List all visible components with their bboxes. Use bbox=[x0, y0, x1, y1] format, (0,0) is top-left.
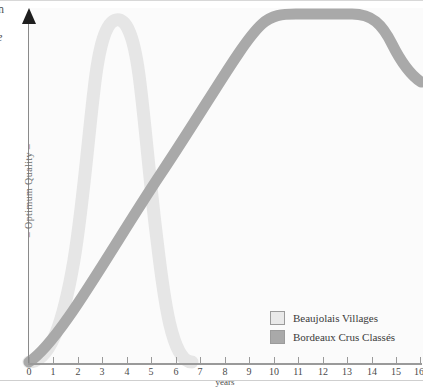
legend: Beaujolais Villages Bordeaux Crus Classé… bbox=[266, 306, 399, 348]
x-axis-tick bbox=[53, 357, 54, 363]
wine-aging-chart: n e – Optimum Quality – 0 1 2 3 4 5 6 7 … bbox=[0, 0, 423, 388]
x-axis-tick-label: 1 bbox=[51, 366, 56, 377]
x-axis-label: years bbox=[216, 377, 235, 387]
x-axis-tick bbox=[200, 357, 201, 363]
x-axis-tick bbox=[151, 357, 152, 363]
x-axis-tick bbox=[298, 357, 299, 363]
y-axis-label: – Optimum Quality – bbox=[23, 111, 34, 271]
x-axis-tick-label: 12 bbox=[318, 366, 328, 377]
x-axis-tick-label: 9 bbox=[247, 366, 252, 377]
x-axis-tick bbox=[225, 357, 226, 363]
x-axis-tick bbox=[347, 357, 348, 363]
x-axis-tick bbox=[127, 357, 128, 363]
x-axis-line bbox=[28, 363, 422, 365]
legend-label-beaujolais-villages: Beaujolais Villages bbox=[293, 312, 378, 324]
series-path-beaujolais-villages bbox=[29, 20, 192, 362]
x-axis-tick-label: 2 bbox=[76, 366, 81, 377]
x-axis-tick bbox=[102, 357, 103, 363]
x-axis-tick-label: 5 bbox=[149, 366, 154, 377]
legend-item-bordeaux-crus-classes: Bordeaux Crus Classés bbox=[270, 327, 395, 346]
x-axis-tick-label: 8 bbox=[223, 366, 228, 377]
x-axis-tick bbox=[29, 357, 30, 363]
legend-swatch-beaujolais-villages bbox=[270, 311, 285, 325]
figure-bottom-rule bbox=[0, 380, 423, 381]
x-axis-tick bbox=[78, 357, 79, 363]
x-axis-tick-label: 15 bbox=[391, 366, 401, 377]
x-axis-tick-label: 10 bbox=[269, 366, 279, 377]
x-axis-tick-label: 11 bbox=[293, 366, 303, 377]
x-axis-tick bbox=[420, 357, 421, 363]
legend-label-bordeaux-crus-classes: Bordeaux Crus Classés bbox=[293, 331, 395, 343]
x-axis-tick bbox=[274, 357, 275, 363]
x-axis-tick bbox=[176, 357, 177, 363]
legend-swatch-bordeaux-crus-classes bbox=[270, 330, 285, 344]
x-axis-tick-label: 16 bbox=[414, 366, 423, 377]
x-axis-tick-label: 3 bbox=[100, 366, 105, 377]
y-axis-arrow-icon bbox=[22, 8, 36, 24]
x-axis-tick-label: 4 bbox=[125, 366, 130, 377]
x-axis-tick-label: 7 bbox=[198, 366, 203, 377]
x-axis-tick-label: 13 bbox=[342, 366, 352, 377]
x-axis-tick-label: 6 bbox=[174, 366, 179, 377]
legend-item-beaujolais-villages: Beaujolais Villages bbox=[270, 308, 395, 327]
x-axis-tick bbox=[372, 357, 373, 363]
x-axis-tick-label: 0 bbox=[27, 366, 32, 377]
x-axis-tick bbox=[396, 357, 397, 363]
x-axis-tick bbox=[323, 357, 324, 363]
x-axis-tick-label: 14 bbox=[367, 366, 377, 377]
x-axis-tick bbox=[249, 357, 250, 363]
